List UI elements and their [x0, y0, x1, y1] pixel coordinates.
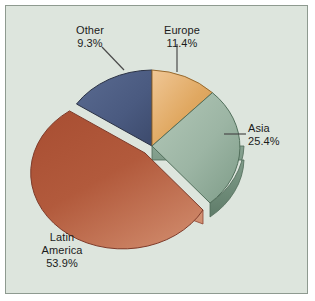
- slice-label-asia-value: 25.4%: [248, 135, 304, 148]
- slice-label-other-name: Other: [61, 24, 119, 37]
- slice-label-other-value: 9.3%: [61, 37, 119, 50]
- slice-label-latin-america-value: 53.9%: [26, 257, 98, 270]
- slice-label-other: Other 9.3%: [61, 24, 119, 50]
- slice-label-latin-america: Latin America 53.9%: [26, 231, 98, 270]
- slice-label-latin-america-line2: America: [26, 244, 98, 257]
- pie-chart-figure: Other 9.3% Europe 11.4% Asia 25.4% Latin…: [0, 0, 315, 301]
- slice-label-europe: Europe 11.4%: [151, 24, 213, 50]
- leader-line-other: [102, 47, 124, 70]
- chart-plot-area: Other 9.3% Europe 11.4% Asia 25.4% Latin…: [5, 5, 308, 294]
- slice-label-asia-name: Asia: [248, 122, 304, 135]
- slice-label-asia: Asia 25.4%: [248, 122, 304, 148]
- slice-label-latin-america-line1: Latin: [26, 231, 98, 244]
- slice-label-europe-value: 11.4%: [151, 37, 213, 50]
- slice-label-europe-name: Europe: [151, 24, 213, 37]
